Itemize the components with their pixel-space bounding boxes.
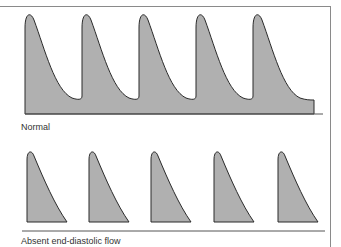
normal-waveform: [25, 15, 314, 114]
normal-label: Normal: [21, 122, 50, 132]
absent-label: Absent end-diastolic flow: [21, 236, 121, 246]
absent-waveform: [27, 152, 318, 222]
waveform-diagram: [0, 0, 341, 247]
